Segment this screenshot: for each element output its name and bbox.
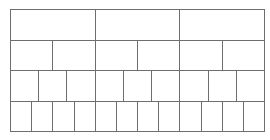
grid-row-2 [11, 40, 264, 71]
grid-cell [52, 102, 73, 132]
grid-cell [11, 10, 95, 40]
grid-cell [222, 102, 243, 132]
grid-cell [179, 102, 200, 132]
grid-cell [179, 71, 207, 101]
grid-cell [179, 41, 221, 71]
grid-cell [11, 71, 38, 101]
grid-cell [11, 102, 31, 132]
grid-cell [123, 71, 151, 101]
grid-cell [222, 41, 264, 71]
grid-cell [236, 71, 264, 101]
grid-row-4 [11, 101, 264, 132]
grid-cell [31, 102, 52, 132]
grid-cell [137, 41, 179, 71]
grid-cell [243, 102, 264, 132]
grid-cell [208, 71, 236, 101]
grid-cell [95, 71, 123, 101]
grid-cell [11, 41, 52, 71]
grid-row-1 [11, 10, 264, 40]
subdivision-grid [10, 9, 265, 132]
grid-cell [38, 71, 66, 101]
grid-row-3 [11, 70, 264, 101]
grid-cell [74, 102, 95, 132]
grid-cell [66, 71, 94, 101]
grid-cell [201, 102, 222, 132]
grid-cell [95, 41, 137, 71]
grid-cell [179, 10, 264, 40]
grid-cell [95, 102, 116, 132]
grid-cell [116, 102, 137, 132]
grid-cell [137, 102, 158, 132]
grid-cell [158, 102, 179, 132]
grid-cell [151, 71, 179, 101]
grid-cell [95, 10, 180, 40]
grid-cell [52, 41, 94, 71]
